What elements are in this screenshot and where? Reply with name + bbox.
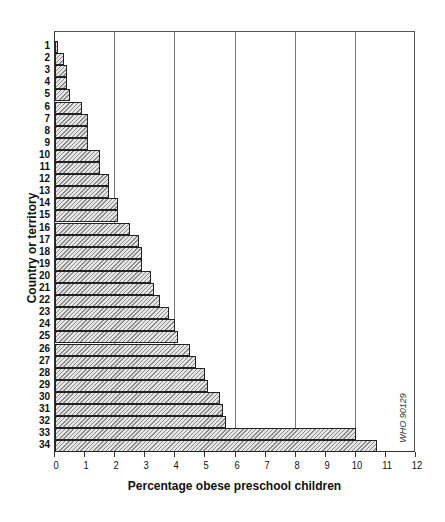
gridline [235,32,236,451]
bar [55,331,178,343]
x-tick-label: 6 [228,459,245,471]
x-tick-label: 2 [108,459,125,471]
bar [55,271,151,283]
x-tick [144,452,145,457]
figure-code-annotation: WHO 90129 [398,393,408,443]
y-tick-label: 30 [20,391,50,403]
bar [55,174,109,186]
x-tick-label: 4 [168,459,185,471]
y-tick-label: 23 [20,306,50,318]
bar [55,114,88,126]
bar [55,126,88,138]
x-axis-title: Percentage obese preschool children [54,479,415,493]
bar [55,440,377,452]
y-tick-label: 12 [20,173,50,185]
x-tick-label: 9 [318,459,335,471]
x-tick-label: 8 [288,459,305,471]
y-axis-title: Country or territory [25,193,39,304]
bar [55,162,100,174]
bar [55,235,139,247]
x-tick [295,452,296,457]
y-tick-label: 11 [20,161,50,173]
x-tick [54,452,55,457]
x-tick-label: 11 [378,459,395,471]
bar [55,283,154,295]
y-tick-label: 4 [20,76,50,88]
bar [55,89,70,101]
bar [55,53,64,65]
bar [55,295,160,307]
x-tick [385,452,386,457]
x-tick [415,452,416,457]
bar [55,380,208,392]
bar [55,102,82,114]
bar [55,416,226,428]
x-tick-label: 3 [138,459,155,471]
bar [55,223,130,235]
bar [55,404,223,416]
y-tick-label: 29 [20,379,50,391]
x-tick-label: 1 [78,459,95,471]
bar [55,356,196,368]
y-tick-label: 3 [20,64,50,76]
x-tick-label: 0 [48,459,65,471]
bar [55,344,190,356]
x-tick [174,452,175,457]
y-tick-label: 8 [20,125,50,137]
bar [55,41,58,53]
bar [55,368,205,380]
bar [55,198,118,210]
gridline [295,32,296,451]
bar [55,150,100,162]
x-tick [114,452,115,457]
bar [55,138,88,150]
x-tick-label: 12 [409,459,426,471]
x-tick [235,452,236,457]
y-tick-label: 34 [20,439,50,451]
x-tick [204,452,205,457]
bar [55,319,175,331]
x-tick [355,452,356,457]
y-tick-label: 6 [20,101,50,113]
y-tick-label: 32 [20,415,50,427]
y-tick-label: 31 [20,403,50,415]
y-tick-label: 5 [20,88,50,100]
y-tick-label: 7 [20,113,50,125]
y-tick-label: 1 [20,40,50,52]
y-tick-label: 26 [20,343,50,355]
y-tick-label: 2 [20,52,50,64]
plot-area [54,31,415,452]
x-tick-label: 5 [198,459,215,471]
bar [55,428,356,440]
y-tick-label: 28 [20,367,50,379]
y-tick-label: 10 [20,149,50,161]
y-tick-label: 27 [20,355,50,367]
bar [55,259,142,271]
x-tick [325,452,326,457]
obesity-bar-chart: 1234567891011121314151617181920212223242… [0,0,445,522]
bar [55,392,220,404]
y-tick-label: 24 [20,318,50,330]
bar [55,65,67,77]
bar [55,210,118,222]
x-tick-label: 10 [348,459,365,471]
bar [55,186,109,198]
y-tick-label: 25 [20,330,50,342]
x-tick-label: 7 [258,459,275,471]
bar [55,307,169,319]
x-tick [265,452,266,457]
y-tick-label: 33 [20,427,50,439]
y-tick-label: 9 [20,137,50,149]
gridline [355,32,356,451]
x-tick [84,452,85,457]
bar [55,77,67,89]
bar [55,247,142,259]
